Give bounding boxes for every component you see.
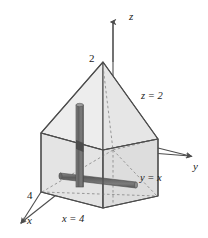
- x-tick-label-4: 4: [27, 189, 33, 201]
- plane-label-x-equals-4: x = 4: [61, 213, 85, 224]
- plane-label-y-equals-x: y = x: [139, 172, 162, 183]
- vertical-rod: [76, 103, 83, 187]
- plane-label-z-equals-2: z = 2: [140, 90, 163, 101]
- solid-region-diagram: z y x 2 4 z = 2 y = x x = 4: [0, 0, 208, 238]
- x-axis-label: x: [26, 214, 32, 226]
- z-tick-label-2: 2: [89, 52, 95, 64]
- y-axis-label: y: [192, 160, 198, 172]
- z-axis-label: z: [128, 10, 134, 22]
- figure-root: z y x 2 4 z = 2 y = x x = 4: [0, 0, 208, 238]
